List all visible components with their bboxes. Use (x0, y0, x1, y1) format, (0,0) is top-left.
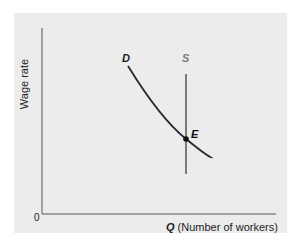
x-axis-variable: Q (166, 221, 175, 233)
x-axis-label: Q (Number of workers) (166, 221, 278, 233)
equilibrium-point (183, 136, 189, 142)
equilibrium-label: E (191, 128, 198, 140)
y-axis-label: Wage rate (18, 54, 30, 114)
supply-label: S (182, 52, 189, 64)
x-axis-description: (Number of workers) (175, 221, 278, 233)
chart-plot (0, 0, 300, 248)
origin-label: 0 (34, 212, 40, 223)
demand-label: D (122, 52, 130, 64)
demand-curve (128, 66, 212, 157)
